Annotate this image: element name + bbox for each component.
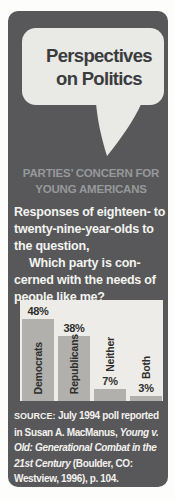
chart-column: 48%Democrats xyxy=(22,300,54,401)
bar-value-label: 48% xyxy=(22,305,54,317)
bar-value-label: 3% xyxy=(130,382,162,394)
text-line: Which party is con- xyxy=(14,255,166,272)
bar xyxy=(94,389,126,401)
bar-category-label: Democrats xyxy=(32,342,44,394)
chart-column: 38%Republicans xyxy=(58,300,90,401)
bar xyxy=(130,396,162,401)
perspectives-card: Perspectives on Politics PARTIES’ CONCER… xyxy=(8,11,168,487)
bar-category-label: Neither xyxy=(104,337,116,372)
speech-bubble: Perspectives on Politics xyxy=(22,28,164,105)
bar-value-label: 7% xyxy=(94,375,126,387)
source-line: SOURCE: July 1994 poll reported xyxy=(14,408,166,425)
section-heading-line2: YOUNG AMERICANS xyxy=(14,182,168,198)
bar-category-label: Both xyxy=(140,356,152,379)
section-heading-line1: PARTIES’ CONCERN FOR xyxy=(14,166,168,182)
bar-value-label: 38% xyxy=(58,322,90,334)
text-line: cerned with the needs of xyxy=(14,272,166,289)
source-note: SOURCE: July 1994 poll reportedin Susan … xyxy=(14,408,166,487)
speech-bubble-tail-icon xyxy=(88,102,144,156)
intro-text: Responses of eighteen- totwenty-nine-yea… xyxy=(14,204,166,306)
page: Perspectives on Politics PARTIES’ CONCER… xyxy=(0,0,175,501)
bar-category-label: Republicans xyxy=(68,334,80,394)
chart-column: 7%Neither xyxy=(94,300,126,401)
text-line: Responses of eighteen- to xyxy=(14,204,166,221)
card-title-line2: on Politics xyxy=(56,67,142,90)
bar-chart: 48%Democrats38%Republicans7%Neither3%Bot… xyxy=(20,300,163,401)
text-line: twenty-nine-year-olds to xyxy=(14,221,166,238)
chart-column: 3%Both xyxy=(130,300,162,401)
card-title-line1: Perspectives xyxy=(46,44,152,67)
source-line: in Susan A. MacManus, Young v. xyxy=(14,425,166,441)
source-line: Westview, 1996), p. 104. xyxy=(14,471,166,487)
section-heading: PARTIES’ CONCERN FOR YOUNG AMERICANS xyxy=(8,166,168,197)
source-line: Old: Generational Combat in the xyxy=(14,440,166,456)
text-line: the question, xyxy=(14,238,166,255)
source-line: 21st Century (Boulder, CO: xyxy=(14,456,166,472)
